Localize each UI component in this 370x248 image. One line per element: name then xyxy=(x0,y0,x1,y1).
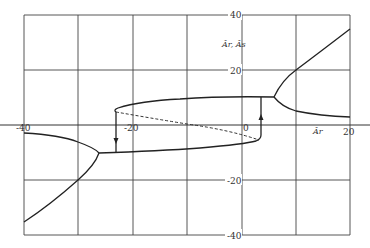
x-tick-20: 20 xyxy=(343,127,355,137)
left-branch-upper xyxy=(24,133,99,153)
x-tick-zero: 0 xyxy=(243,123,249,133)
y-tick-20: 20 xyxy=(230,66,242,76)
arrow-up-icon xyxy=(259,114,264,120)
y-tick-neg40: -40 xyxy=(227,231,242,241)
upper-right-branch xyxy=(274,29,350,97)
upper-right-branch-lower xyxy=(274,97,350,117)
upper-middle-branch xyxy=(115,97,274,112)
x-tick-neg20: -20 xyxy=(124,123,139,133)
bifurcation-chart: -40 -20 0 20 40 20 -20 -40 Âr, Âs Âr xyxy=(0,0,370,248)
left-branch-lower xyxy=(24,153,99,222)
x-axis-label: Âr xyxy=(312,127,324,136)
y-tick-40: 40 xyxy=(230,10,242,20)
y-axis-label: Âr, Âs xyxy=(221,40,246,49)
arrow-down-icon xyxy=(114,138,119,144)
y-tick-neg20: -20 xyxy=(227,176,242,186)
x-tick-neg40: -40 xyxy=(16,123,31,133)
